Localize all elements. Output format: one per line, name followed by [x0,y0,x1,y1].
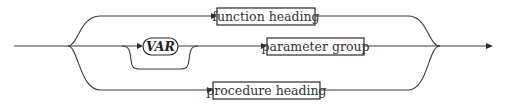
syntax-diagram: function heading VAR parameter group pro… [0,0,507,110]
procedure-heading-label: procedure heading [206,83,326,98]
var-keyword-label: VAR [146,39,175,54]
function-heading-label: function heading [212,9,319,24]
parameter-group-label: parameter group [261,39,369,54]
branch-top-line [68,16,212,46]
branch-bottom-line [68,46,208,90]
exit-arrow [486,43,493,49]
arrow-into-var [137,43,143,49]
